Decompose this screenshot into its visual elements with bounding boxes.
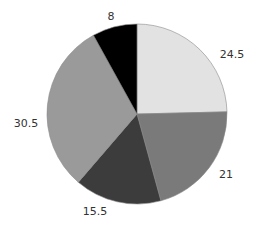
pie-chart: 24.52115.530.58 <box>0 0 258 230</box>
pie-slices <box>47 24 227 204</box>
pie-slice <box>137 24 227 114</box>
slice-value-label: 15.5 <box>83 205 108 218</box>
slice-value-label: 8 <box>108 10 115 23</box>
slice-value-label: 21 <box>219 168 233 181</box>
slice-value-label: 30.5 <box>14 117 39 130</box>
slice-value-label: 24.5 <box>220 48 245 61</box>
